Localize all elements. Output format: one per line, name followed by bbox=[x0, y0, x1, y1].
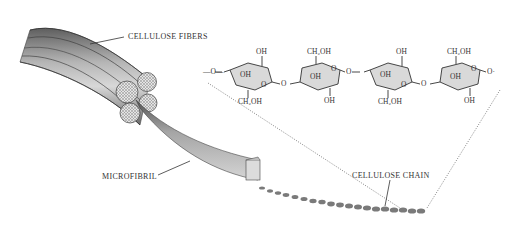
ring4-bottom-group: OH bbox=[464, 96, 475, 105]
fiber-cross-section bbox=[138, 73, 157, 92]
label-cellulose-fibers: CELLULOSE FIBERS bbox=[128, 32, 208, 41]
label-microfibril: MICROFIBRIL bbox=[102, 172, 157, 181]
ring3-bottom-group: CH₂OH bbox=[378, 97, 402, 106]
ring4-top-group: CH₂OH bbox=[447, 47, 471, 56]
diagram-canvas bbox=[0, 0, 529, 237]
glucose-rings bbox=[215, 56, 486, 98]
linkage-right-end: O· bbox=[487, 67, 495, 76]
microfibril-leader bbox=[158, 161, 190, 175]
ring3-center-group: OH bbox=[380, 70, 391, 79]
fibers-leader bbox=[90, 37, 124, 44]
cellulose-structure-diagram: CELLULOSE FIBERS MICROFIBRIL CELLULOSE C… bbox=[0, 0, 529, 237]
linkage-1: O bbox=[281, 79, 286, 88]
microfibril-end-face bbox=[246, 160, 260, 180]
ring2-bottom-group: OH bbox=[324, 96, 335, 105]
linkage-3: O bbox=[421, 79, 426, 88]
ring2-center-group: OH bbox=[310, 72, 321, 81]
ring3-top-group: OH bbox=[396, 47, 407, 56]
ring1-bottom-group: CH₂OH bbox=[238, 97, 262, 106]
cellulose-fiber-bundle bbox=[20, 28, 157, 125]
chain-leader bbox=[385, 180, 390, 206]
label-cellulose-chain: CELLULOSE CHAIN bbox=[352, 171, 430, 180]
ring4-ring-oxygen: O bbox=[471, 64, 476, 73]
ring4-center-group: OH bbox=[450, 72, 461, 81]
linkage-2: O bbox=[346, 67, 351, 76]
ring3-ring-oxygen: O bbox=[401, 80, 406, 89]
fiber-cross-section bbox=[120, 103, 140, 123]
ring1-top-group: OH bbox=[256, 47, 267, 56]
microfibril bbox=[136, 100, 260, 180]
ring1-ring-oxygen: O bbox=[261, 80, 266, 89]
ring2-top-group: CH₂OH bbox=[307, 47, 331, 56]
ring2-ring-oxygen: O bbox=[331, 64, 336, 73]
linkage-left-end: —O— bbox=[203, 67, 223, 76]
cellulose-chain-beads bbox=[259, 186, 425, 213]
ring1-center-group: OH bbox=[240, 70, 251, 79]
fiber-cross-section bbox=[116, 81, 138, 103]
